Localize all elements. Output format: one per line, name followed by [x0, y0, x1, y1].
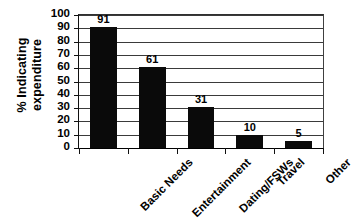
- plot-area: 916131105: [78, 14, 324, 148]
- x-axis-tick: [177, 148, 178, 154]
- x-axis-tick: [79, 148, 80, 154]
- x-axis-category-label: Other: [323, 156, 353, 186]
- y-axis-tick: [74, 95, 79, 96]
- y-axis-tick-label: 60: [44, 61, 70, 72]
- y-axis-tick: [74, 135, 79, 136]
- y-axis-tick: [74, 82, 79, 83]
- x-axis-tick: [323, 148, 324, 154]
- y-axis-tick-label: 30: [44, 101, 70, 112]
- bar-value-label: 91: [85, 14, 121, 25]
- y-axis-tick: [74, 68, 79, 69]
- axis-baseline: [79, 148, 323, 149]
- y-axis-tick: [74, 42, 79, 43]
- bar-value-label: 61: [134, 54, 170, 65]
- y-axis-title-line-1: % Indicating: [15, 38, 30, 113]
- bar: [139, 67, 166, 148]
- y-axis-tick: [74, 55, 79, 56]
- y-axis-tick: [74, 15, 79, 16]
- y-axis-tick-label: 90: [44, 21, 70, 32]
- y-axis-tick: [74, 108, 79, 109]
- y-axis-tick: [74, 28, 79, 29]
- y-axis-tick-label: 70: [44, 48, 70, 59]
- y-axis-title-line-2: expenditure: [30, 38, 45, 113]
- y-axis-tick-label: 20: [44, 114, 70, 125]
- y-axis-tick: [74, 121, 79, 122]
- bar: [285, 141, 312, 148]
- x-axis-tick: [128, 148, 129, 154]
- y-axis-tick-label: 40: [44, 88, 70, 99]
- x-axis-category-label: Basic Needs: [138, 156, 195, 213]
- bar: [90, 27, 117, 148]
- bar: [188, 107, 215, 148]
- y-axis-tick-label: 0: [44, 141, 70, 152]
- bar-value-label: 10: [232, 122, 268, 133]
- x-axis-tick: [274, 148, 275, 154]
- y-axis-tick-label: 10: [44, 128, 70, 139]
- y-axis-tick-label: 50: [44, 75, 70, 86]
- bar-value-label: 5: [281, 128, 317, 139]
- x-axis-tick: [225, 148, 226, 154]
- y-axis-tick-label: 100: [44, 8, 70, 19]
- bar: [236, 135, 263, 148]
- bar-value-label: 31: [183, 94, 219, 105]
- y-axis-tick-label: 80: [44, 35, 70, 46]
